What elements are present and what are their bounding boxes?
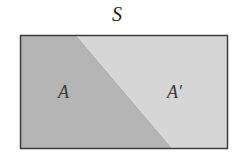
region-a-label: A	[58, 82, 69, 103]
region-a-complement-label: A′	[167, 82, 182, 103]
venn-rectangle-diagram	[0, 0, 240, 161]
